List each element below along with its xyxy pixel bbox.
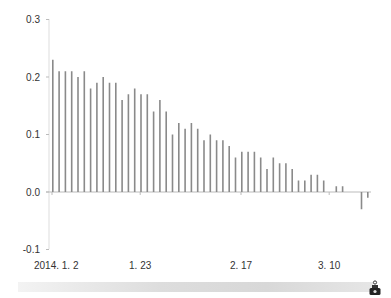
bar [115, 83, 117, 192]
y-axis: 0.30.20.10.0-0.1 [23, 14, 49, 255]
bar [285, 163, 287, 192]
footer-band [18, 282, 373, 292]
bar [134, 89, 136, 193]
bar [178, 123, 180, 192]
bar [336, 186, 338, 192]
y-tick-label: 0.1 [26, 129, 40, 140]
bar [109, 83, 111, 192]
bar [203, 140, 205, 192]
bar [77, 77, 79, 192]
y-tick-label: -0.1 [23, 244, 41, 255]
x-axis [46, 192, 371, 195]
bar [222, 140, 224, 192]
bar [323, 181, 325, 193]
bar [254, 152, 256, 192]
bar [210, 135, 212, 193]
bar [291, 169, 293, 192]
bar [228, 146, 230, 192]
bar [235, 158, 237, 193]
bar [121, 100, 123, 192]
bar [260, 158, 262, 193]
bar [310, 175, 312, 192]
bar [165, 112, 167, 193]
bar [184, 129, 186, 192]
bar [84, 71, 86, 192]
bar [65, 71, 67, 192]
bar [266, 169, 268, 192]
bar [367, 192, 369, 198]
bar-chart: 0.30.20.10.0-0.1 2014. 1. 21. 232. 173. … [0, 0, 391, 298]
bar [102, 77, 104, 192]
bar [147, 94, 149, 192]
bar [159, 100, 161, 192]
x-tick-label: 2014. 1. 2 [34, 260, 79, 271]
bar [128, 94, 130, 192]
bar [172, 135, 174, 193]
bar [342, 186, 344, 192]
y-tick-label: 0.2 [26, 72, 40, 83]
y-tick-label: 0.3 [26, 14, 40, 25]
bar [304, 181, 306, 193]
x-tick-label: 1. 23 [129, 260, 152, 271]
x-tick-label: 3. 10 [318, 260, 341, 271]
bar [298, 181, 300, 193]
bar [361, 192, 363, 209]
bar [279, 163, 281, 192]
x-tick-labels: 2014. 1. 21. 232. 173. 10 [34, 260, 341, 271]
bar [273, 158, 275, 193]
bar [247, 152, 249, 192]
x-tick-label: 2. 17 [230, 260, 253, 271]
bar [58, 71, 60, 192]
robot-icon [368, 280, 382, 296]
bar [191, 123, 193, 192]
bar [317, 175, 319, 192]
bar [71, 71, 73, 192]
bar [153, 112, 155, 193]
bar [216, 140, 218, 192]
bar [96, 83, 98, 192]
bar [241, 152, 243, 192]
bar [52, 60, 54, 192]
y-tick-label: 0.0 [26, 187, 40, 198]
bar [140, 94, 142, 192]
bar [197, 129, 199, 192]
bars [52, 60, 369, 210]
bar [90, 89, 92, 193]
